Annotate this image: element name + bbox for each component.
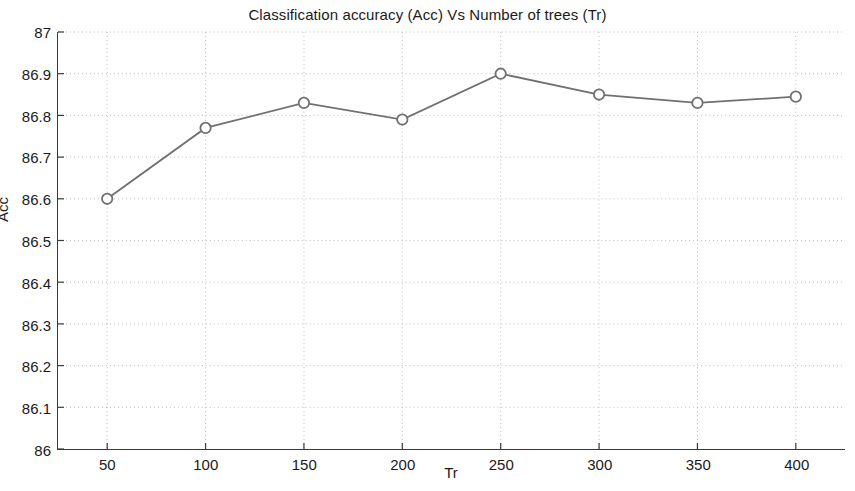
y-tick-label: 87 bbox=[34, 24, 51, 41]
data-point-marker bbox=[594, 89, 604, 99]
data-point-marker bbox=[102, 194, 112, 204]
y-tick-label: 86.6 bbox=[22, 191, 51, 208]
y-tick-label: 86.2 bbox=[22, 358, 51, 375]
y-tick-label: 86.5 bbox=[22, 233, 51, 250]
data-point-marker bbox=[692, 98, 702, 108]
data-point-marker bbox=[791, 91, 801, 101]
plot-area: 501001502002503003504008686.186.286.386.… bbox=[57, 32, 845, 450]
data-point-marker bbox=[495, 69, 505, 79]
data-series-accuracy bbox=[58, 32, 845, 449]
data-point-marker bbox=[299, 98, 309, 108]
series-line bbox=[107, 74, 796, 199]
y-axis-label: Acc bbox=[0, 197, 11, 222]
y-tick-label: 86.9 bbox=[22, 65, 51, 82]
y-tick-label: 86.3 bbox=[22, 316, 51, 333]
y-tick-label: 86.1 bbox=[22, 400, 51, 417]
y-tick-label: 86 bbox=[34, 442, 51, 459]
y-tick-label: 86.7 bbox=[22, 149, 51, 166]
data-point-marker bbox=[200, 123, 210, 133]
data-point-marker bbox=[397, 114, 407, 124]
y-tick-label: 86.8 bbox=[22, 107, 51, 124]
chart-title: Classification accuracy (Acc) Vs Number … bbox=[0, 6, 855, 23]
chart-figure: Classification accuracy (Acc) Vs Number … bbox=[0, 0, 855, 491]
y-tick-label: 86.4 bbox=[22, 274, 51, 291]
x-axis-label: Tr bbox=[57, 464, 845, 481]
